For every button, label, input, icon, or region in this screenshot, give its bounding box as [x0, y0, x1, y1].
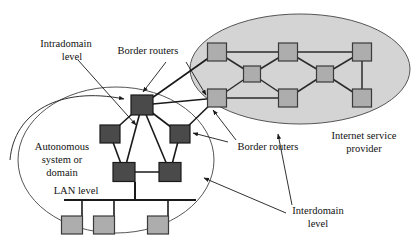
isp-node-b3[interactable]	[353, 89, 372, 107]
border-router-right[interactable]	[170, 125, 190, 143]
border-router-top[interactable]	[131, 95, 153, 115]
label-border-routers-top: Border routers	[118, 45, 179, 56]
label-interdomain-level-line1: Interdomain	[292, 205, 344, 216]
label-border-routers-bottom: Border routers	[238, 141, 299, 152]
lan-host-1[interactable]	[62, 216, 83, 234]
leader-border-routers-bottom-a	[213, 110, 236, 140]
leader-border-routers-top-b	[143, 62, 166, 92]
label-lan-level: LAN level	[54, 185, 99, 196]
router-lower-right[interactable]	[159, 163, 181, 182]
isp-node-b2[interactable]	[279, 89, 298, 107]
leader-interdomain-left	[204, 178, 286, 213]
isp-node-m1[interactable]	[244, 66, 261, 82]
lan-host-2[interactable]	[94, 216, 115, 234]
border-router-left[interactable]	[100, 125, 120, 143]
isp-node-t3[interactable]	[353, 43, 372, 61]
label-intradomain-level-line2: level	[62, 51, 82, 62]
isp-node-t2[interactable]	[279, 43, 298, 61]
isp-node-m2[interactable]	[317, 66, 334, 82]
isp-node-b1[interactable]	[208, 89, 227, 107]
label-internet-service-provider-line1: Internet service	[331, 130, 396, 141]
label-autonomous-system-line1: Autonomous	[35, 141, 89, 152]
label-internet-service-provider-line2: provider	[346, 143, 382, 154]
router-lower-left[interactable]	[113, 163, 135, 182]
label-autonomous-system-line3: domain	[46, 167, 78, 178]
label-interdomain-level-line2: level	[308, 218, 328, 229]
lan-host-3[interactable]	[148, 216, 169, 234]
label-autonomous-system-line2: system or	[42, 154, 83, 165]
isp-node-t1[interactable]	[208, 43, 227, 61]
network-diagram-figure: Intradomain level Border routers Autonom…	[0, 0, 420, 252]
diagram-canvas: Intradomain level Border routers Autonom…	[0, 0, 420, 252]
lan-host-nodes	[62, 216, 169, 234]
label-intradomain-level-line1: Intradomain	[40, 38, 92, 49]
